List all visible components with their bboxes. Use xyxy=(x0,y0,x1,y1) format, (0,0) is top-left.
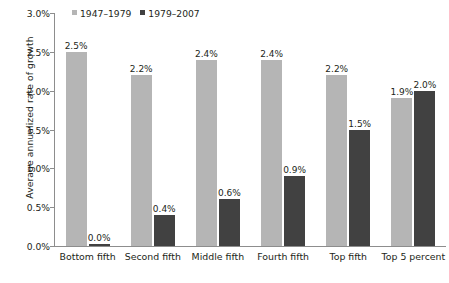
x-axis-tick-label: Top fifth xyxy=(330,251,367,262)
y-axis-tick-label: 0.5% xyxy=(14,202,50,213)
bar-chart: Average annualized rate of growth 0.0%0.… xyxy=(0,0,449,283)
bar-series-a[interactable] xyxy=(326,75,347,246)
chart-legend: 1947–19791979–2007 xyxy=(72,8,200,19)
legend-swatch-icon xyxy=(72,10,77,15)
bar-series-a[interactable] xyxy=(391,98,412,246)
bar-value-label: 2.0% xyxy=(413,80,436,90)
bar-series-b[interactable] xyxy=(349,130,370,247)
x-axis-tick-label: Bottom fifth xyxy=(60,251,116,262)
bar-series-b[interactable] xyxy=(154,215,175,246)
bar-group: 2.4%0.9% xyxy=(251,13,316,246)
y-axis-tick-label: 3.0% xyxy=(14,8,50,19)
bar-value-label: 1.5% xyxy=(348,119,371,129)
x-axis-tick-labels: Bottom fifthSecond fifthMiddle fifthFour… xyxy=(55,251,446,273)
legend-label: 1947–1979 xyxy=(80,8,131,19)
y-axis-tick-label: 0.0% xyxy=(14,241,50,252)
x-axis-line xyxy=(54,246,446,247)
bar-value-label: 0.4% xyxy=(153,204,176,214)
y-axis-tick-label: 2.0% xyxy=(14,85,50,96)
legend-swatch-icon xyxy=(140,10,145,15)
legend-item[interactable]: 1979–2007 xyxy=(140,8,199,19)
x-axis-tick-label: Second fifth xyxy=(125,251,181,262)
bar-series-a[interactable] xyxy=(131,75,152,246)
legend-item[interactable]: 1947–1979 xyxy=(72,8,131,19)
bar-series-b[interactable] xyxy=(89,244,110,246)
x-axis-tick-label: Top 5 percent xyxy=(382,251,446,262)
y-axis-tick-label: 1.5% xyxy=(14,124,50,135)
bar-value-label: 1.9% xyxy=(390,87,413,97)
bar-value-label: 2.4% xyxy=(195,49,218,59)
y-axis-tick-label: 1.0% xyxy=(14,163,50,174)
y-axis-tick-label: 2.5% xyxy=(14,46,50,57)
bar-series-a[interactable] xyxy=(196,60,217,246)
bar-series-b[interactable] xyxy=(414,91,435,246)
y-axis-tick-labels: 0.0%0.5%1.0%1.5%2.0%2.5%3.0% xyxy=(14,8,50,246)
plot-area: 2.5%0.0%2.2%0.4%2.4%0.6%2.4%0.9%2.2%1.5%… xyxy=(55,13,446,246)
bar-value-label: 2.4% xyxy=(260,49,283,59)
bar-value-label: 0.0% xyxy=(88,233,111,243)
bar-series-a[interactable] xyxy=(66,52,87,246)
bar-value-label: 2.5% xyxy=(65,41,88,51)
bar-series-b[interactable] xyxy=(284,176,305,246)
bar-group: 2.4%0.6% xyxy=(185,13,250,246)
y-axis-tick-mark xyxy=(50,91,54,92)
legend-label: 1979–2007 xyxy=(148,8,199,19)
y-axis-tick-mark xyxy=(50,207,54,208)
y-axis-tick-mark xyxy=(50,52,54,53)
y-axis-tick-mark xyxy=(50,130,54,131)
y-axis-tick-mark xyxy=(50,13,54,14)
x-axis-tick-label: Fourth fifth xyxy=(257,251,309,262)
y-axis-tick-mark xyxy=(50,246,54,247)
bar-series-b[interactable] xyxy=(219,199,240,246)
bar-value-label: 2.2% xyxy=(325,64,348,74)
bar-group: 2.5%0.0% xyxy=(55,13,120,246)
bar-series-a[interactable] xyxy=(261,60,282,246)
x-axis-tick-label: Middle fifth xyxy=(192,251,245,262)
bar-group: 1.9%2.0% xyxy=(381,13,446,246)
y-axis-tick-mark xyxy=(50,168,54,169)
bar-group: 2.2%0.4% xyxy=(120,13,185,246)
bar-value-label: 2.2% xyxy=(130,64,153,74)
bar-group: 2.2%1.5% xyxy=(316,13,381,246)
bar-value-label: 0.6% xyxy=(218,188,241,198)
bar-value-label: 0.9% xyxy=(283,165,306,175)
